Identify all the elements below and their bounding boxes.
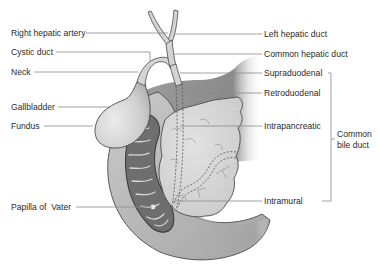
label-intrapancreatic: Intrapancreatic <box>264 121 322 131</box>
label-supraduodenal: Supraduodenal <box>264 68 322 78</box>
label-right-hepatic-artery: Right hepatic artery <box>11 28 86 38</box>
label-common-hepatic-duct: Common hepatic duct <box>264 49 348 59</box>
pancreas <box>159 97 242 217</box>
label-common-bile-duct-line1: Common <box>337 129 372 139</box>
label-left-hepatic-duct: Left hepatic duct <box>264 29 328 39</box>
label-common-bile-duct-line2: bile duct <box>337 140 370 150</box>
label-retroduodenal: Retroduodenal <box>264 88 320 98</box>
label-neck: Neck <box>11 67 31 77</box>
common-bile-duct-bracket <box>322 73 331 201</box>
right-hepatic-duct-branch <box>148 11 171 46</box>
label-cystic-duct: Cystic duct <box>11 47 54 57</box>
left-hepatic-duct-branch <box>168 10 178 42</box>
label-fundus: Fundus <box>11 121 40 131</box>
biliary-anatomy-diagram: Right hepatic artery Cystic duct Neck Ga… <box>0 0 380 267</box>
label-gallbladder: Gallbladder <box>11 102 55 112</box>
label-intramural: Intramural <box>264 196 303 206</box>
label-papilla-of-vater: Papilla of Vater <box>11 202 71 212</box>
